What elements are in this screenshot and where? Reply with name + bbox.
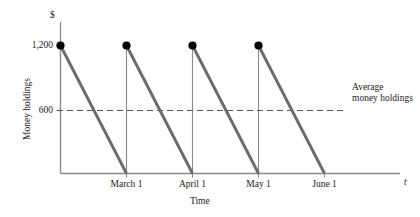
peak-marker-2 [122, 41, 130, 49]
peak-markers [56, 41, 262, 49]
sawtooth-segment-3 [193, 46, 259, 174]
x-axis-variable-symbol: t [404, 177, 407, 188]
sawtooth-segment-1 [61, 46, 127, 174]
x-tick-label-april: April 1 [162, 179, 223, 190]
y-axis-unit-symbol: $ [50, 10, 55, 21]
y-axis-title: Money holdings [22, 78, 33, 140]
average-money-holdings-label: Average money holdings [352, 82, 413, 104]
y-tick-label-1200: 1,200 [6, 40, 53, 51]
x-tick-label-june: June 1 [294, 179, 355, 190]
sawtooth-segment-2 [127, 46, 193, 174]
money-holdings-chart: $ 1,200 600 Money holdings March 1 April… [0, 0, 420, 217]
x-tick-label-march: March 1 [96, 179, 157, 190]
peak-marker-1 [56, 41, 64, 49]
peak-marker-4 [254, 41, 262, 49]
sawtooth-segment-4 [259, 46, 325, 174]
legend-line-1: Average [352, 82, 383, 92]
legend-line-2: money holdings [352, 93, 413, 104]
x-tick-label-may: May 1 [228, 179, 289, 190]
peak-marker-3 [188, 41, 196, 49]
x-axis-title: Time [190, 196, 210, 207]
